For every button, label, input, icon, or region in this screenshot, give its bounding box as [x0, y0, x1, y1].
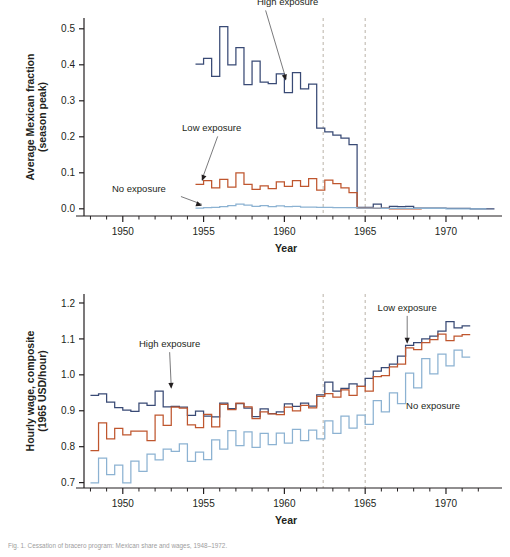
annotation-label: High exposure	[139, 338, 200, 349]
annotation-leader-line	[266, 10, 286, 79]
top-chart-panel: 0.00.10.20.30.40.519501955196019651970Hi…	[0, 0, 510, 272]
x-tick-label: 1960	[273, 498, 296, 509]
x-tick-label: 1970	[435, 226, 458, 237]
y-tick-label: 0.9	[61, 405, 75, 416]
x-tick-label: 1950	[112, 226, 135, 237]
hourly-wage-chart: 0.70.80.91.01.11.219501955196019651970Hi…	[0, 272, 510, 557]
annotation-label: Low exposure	[378, 302, 437, 313]
y-axis-title: Hourly wage, composite(1965 USD/hour)	[24, 330, 48, 451]
annotation-arrowhead	[405, 338, 410, 344]
figure-caption: Fig. 1. Cessation of bracero program: Me…	[0, 540, 510, 557]
x-tick-label: 1955	[192, 498, 215, 509]
annotation-label: High exposure	[257, 0, 318, 7]
y-axis-title-line2: (season peak)	[36, 82, 48, 152]
series-line-no-exposure	[196, 204, 487, 209]
x-tick-label: 1960	[273, 226, 296, 237]
x-tick-label: 1965	[354, 226, 377, 237]
x-tick-label: 1970	[435, 498, 458, 509]
annotation-arrowhead	[202, 174, 207, 181]
annotation-leader-line	[170, 352, 172, 387]
y-axis-title: Average Mexican fraction(season peak)	[24, 54, 48, 181]
x-tick-label: 1950	[112, 498, 135, 509]
y-tick-label: 0.8	[61, 441, 75, 452]
y-tick-label: 1.0	[61, 369, 75, 380]
y-tick-label: 1.1	[61, 334, 75, 345]
annotation-label: No exposure	[406, 400, 460, 411]
annotation-arrowhead	[168, 383, 173, 389]
y-tick-label: 0.2	[61, 131, 75, 142]
y-tick-label: 1.2	[61, 298, 75, 309]
x-axis-title: Year	[275, 514, 297, 526]
bottom-chart-panel: 0.70.80.91.01.11.219501955196019651970Hi…	[0, 272, 510, 557]
y-tick-label: 0.3	[61, 95, 75, 106]
y-axis-title-line1: Hourly wage, composite	[24, 330, 36, 451]
annotation-label: No exposure	[112, 183, 166, 194]
series-line-no-exposure	[90, 350, 470, 483]
y-tick-label: 0.5	[61, 23, 75, 34]
x-tick-label: 1955	[192, 226, 215, 237]
y-tick-label: 0.0	[61, 203, 75, 214]
annotation-leader-line	[202, 136, 218, 179]
mexican-fraction-chart: 0.00.10.20.30.40.519501955196019651970Hi…	[0, 0, 510, 272]
annotation-label: Low exposure	[182, 122, 241, 133]
y-axis-title-line1: Average Mexican fraction	[24, 54, 36, 181]
y-axis-title-line2: (1965 USD/hour)	[36, 350, 48, 432]
y-tick-label: 0.7	[61, 477, 75, 488]
x-tick-label: 1965	[354, 498, 377, 509]
series-line-high-exposure	[196, 27, 495, 209]
y-tick-label: 0.4	[61, 59, 75, 70]
x-axis-title: Year	[275, 242, 297, 254]
series-line-low-exposure	[196, 173, 422, 209]
y-tick-label: 0.1	[61, 167, 75, 178]
